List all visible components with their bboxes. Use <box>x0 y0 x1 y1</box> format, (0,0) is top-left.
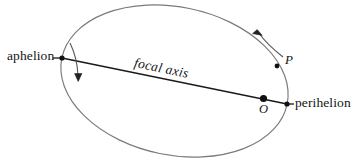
direction-arrow-lower-head <box>75 74 82 82</box>
direction-arrow-upper-group <box>253 30 283 57</box>
aphelion-label: aphelion <box>7 48 54 64</box>
aphelion-vertex-dot <box>59 55 64 60</box>
perihelion-label: perihelion <box>295 95 351 111</box>
direction-arrow-upper-head <box>253 30 263 36</box>
orbit-diagram-figure: aphelion perihelion focal axis P O <box>0 0 356 168</box>
orbit-ellipse <box>47 0 302 168</box>
orbit-ellipse-group <box>47 0 302 168</box>
point-o-label: O <box>259 102 268 117</box>
perihelion-vertex-dot <box>284 101 289 106</box>
point-p-label: P <box>285 52 293 68</box>
point-p-dot <box>275 64 280 69</box>
direction-arrow-lower-curve <box>70 43 78 75</box>
orbit-diagram-canvas <box>0 0 356 168</box>
